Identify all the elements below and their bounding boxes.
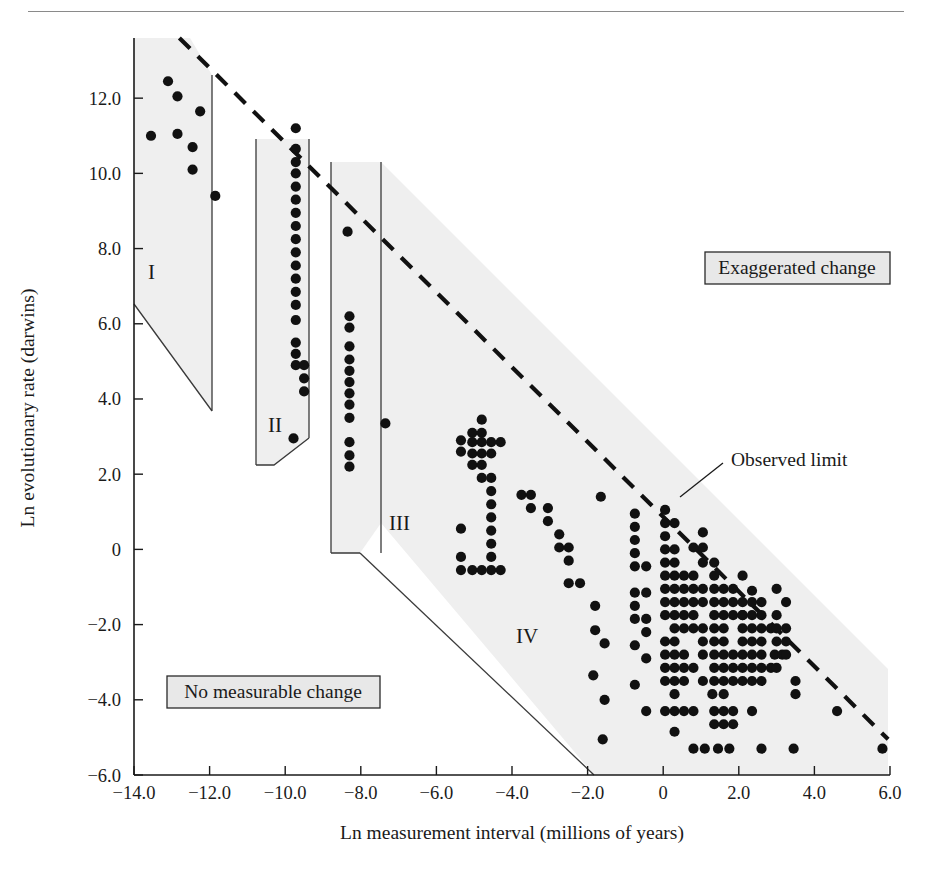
x-tick-label: −8.0 xyxy=(344,783,378,803)
data-point xyxy=(291,144,301,154)
data-point xyxy=(877,744,887,754)
data-point xyxy=(456,552,466,562)
data-point xyxy=(709,676,719,686)
data-point xyxy=(669,597,679,607)
data-point xyxy=(772,636,782,646)
data-point xyxy=(709,597,719,607)
data-point xyxy=(747,706,757,716)
data-point xyxy=(660,531,670,541)
data-point xyxy=(719,584,729,594)
data-point xyxy=(756,650,766,660)
data-point xyxy=(344,388,354,398)
data-point xyxy=(596,492,606,502)
data-point xyxy=(291,234,301,244)
x-tick-label: 4.0 xyxy=(803,783,826,803)
data-point xyxy=(344,450,354,460)
data-point xyxy=(709,719,719,729)
data-point xyxy=(747,623,757,633)
data-point xyxy=(679,623,689,633)
data-point xyxy=(737,650,747,660)
data-point xyxy=(709,557,719,567)
data-point xyxy=(688,623,698,633)
data-point xyxy=(344,462,354,472)
data-point xyxy=(291,337,301,347)
y-axis-title: Ln evolutionary rate (darwins) xyxy=(17,289,39,528)
x-tick-label: −6.0 xyxy=(420,783,454,803)
data-point xyxy=(543,503,553,513)
data-point xyxy=(660,676,670,686)
data-point xyxy=(588,670,598,680)
data-point xyxy=(737,663,747,673)
data-point xyxy=(543,516,553,526)
data-point xyxy=(467,437,477,447)
data-point xyxy=(660,650,670,660)
data-point xyxy=(477,565,487,575)
data-point xyxy=(187,142,197,152)
data-point xyxy=(146,131,156,141)
data-point xyxy=(709,636,719,646)
data-point xyxy=(660,557,670,567)
data-point xyxy=(554,529,564,539)
data-point xyxy=(679,597,689,607)
data-point xyxy=(344,377,354,387)
data-point xyxy=(698,527,708,537)
data-point xyxy=(698,676,708,686)
data-point xyxy=(291,208,301,218)
y-axis-tick-labels: −6.0−4.0−2.002.04.06.08.010.012.0 xyxy=(87,89,121,786)
region-label-iii: III xyxy=(389,511,410,535)
data-point xyxy=(669,663,679,673)
data-point xyxy=(600,695,610,705)
data-point xyxy=(728,663,738,673)
data-point xyxy=(709,706,719,716)
data-point xyxy=(772,610,782,620)
data-point xyxy=(660,544,670,554)
data-point xyxy=(526,503,536,513)
data-point xyxy=(688,610,698,620)
data-point xyxy=(698,597,708,607)
data-point xyxy=(291,260,301,270)
data-point xyxy=(630,548,640,558)
data-point xyxy=(477,473,487,483)
data-point xyxy=(526,490,536,500)
data-point xyxy=(291,221,301,231)
data-point xyxy=(467,428,477,438)
data-point xyxy=(291,274,301,284)
data-point xyxy=(719,663,729,673)
data-point xyxy=(709,650,719,660)
data-point xyxy=(698,623,708,633)
x-tick-label: 0 xyxy=(659,783,668,803)
data-point xyxy=(288,433,298,443)
data-point xyxy=(600,638,610,648)
data-point xyxy=(719,623,729,633)
data-point xyxy=(669,650,679,660)
data-point xyxy=(641,706,651,716)
data-point xyxy=(630,614,640,624)
data-point xyxy=(719,689,729,699)
data-point xyxy=(641,653,651,663)
data-point xyxy=(344,341,354,351)
data-point xyxy=(679,571,689,581)
data-point xyxy=(516,490,526,500)
data-point xyxy=(630,509,640,519)
data-point xyxy=(669,706,679,716)
data-point xyxy=(344,311,354,321)
data-point xyxy=(172,91,182,101)
data-point xyxy=(679,676,689,686)
x-tick-label: −4.0 xyxy=(495,783,529,803)
data-point xyxy=(630,535,640,545)
data-point xyxy=(564,556,574,566)
data-point xyxy=(688,744,698,754)
data-point xyxy=(790,676,800,686)
data-point xyxy=(344,354,354,364)
data-point xyxy=(709,623,719,633)
data-point xyxy=(195,106,205,116)
data-point xyxy=(709,663,719,673)
data-point xyxy=(630,588,640,598)
data-point xyxy=(719,636,729,646)
y-tick-label: 8.0 xyxy=(98,239,121,259)
y-tick-label: 4.0 xyxy=(98,389,121,409)
data-point xyxy=(747,586,757,596)
data-point xyxy=(679,650,689,660)
data-point xyxy=(456,524,466,534)
data-point xyxy=(756,744,766,754)
